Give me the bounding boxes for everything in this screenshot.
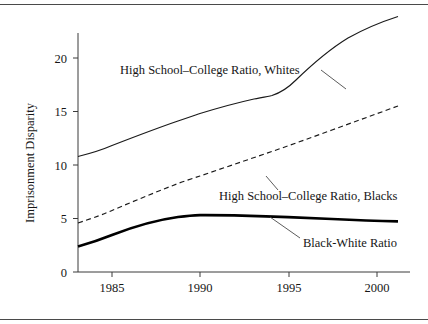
- y-tick-marks: [73, 58, 78, 272]
- y-axis-title: Imprisonment Disparity: [23, 102, 37, 223]
- leader-line-whites: [321, 70, 346, 89]
- y-tick-label-20: 20: [55, 52, 68, 66]
- x-tick-label-1985: 1985: [100, 281, 125, 295]
- y-tick-label-15: 15: [55, 105, 68, 119]
- x-tick-marks: [112, 272, 377, 277]
- x-tick-label-1990: 1990: [188, 281, 213, 295]
- y-tick-label-5: 5: [61, 212, 67, 226]
- x-tick-label-2000: 2000: [365, 281, 390, 295]
- line-chart: 0 5 10 15 20 Imprisonment Disparity 1985…: [0, 0, 428, 324]
- y-tick-label-10: 10: [55, 159, 68, 173]
- annotation-hs-college-blacks: High School–College Ratio, Blacks: [219, 189, 398, 203]
- leader-line-black-white: [270, 217, 300, 238]
- series-line-hs-college-whites: [78, 17, 398, 157]
- annotation-black-white-ratio: Black-White Ratio: [303, 236, 397, 250]
- annotation-hs-college-whites: High School–College Ratio, Whites: [120, 63, 300, 77]
- series-line-hs-college-blacks: [78, 106, 398, 223]
- y-tick-label-0: 0: [61, 266, 67, 280]
- figure-container: 0 5 10 15 20 Imprisonment Disparity 1985…: [0, 0, 428, 324]
- leader-line-blacks: [266, 176, 278, 190]
- x-tick-label-1995: 1995: [277, 281, 302, 295]
